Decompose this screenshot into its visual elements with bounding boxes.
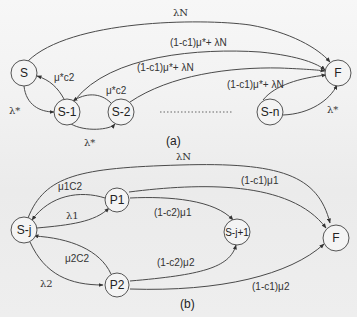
node-s-2: S-2 (108, 99, 134, 125)
svg-text:F: F (332, 231, 339, 245)
svg-text:S-1: S-1 (58, 105, 77, 119)
edge-label-lambda-n: λN (173, 7, 188, 18)
edge-label-sn-f-upper: (1-c1)μ*+ λN (227, 79, 284, 90)
node-f-b: F (323, 225, 349, 251)
edge-label-sj-p2: λ2 (40, 278, 53, 289)
svg-text:P1: P1 (110, 193, 125, 207)
svg-text:S-j+1: S-j+1 (225, 227, 249, 238)
svg-text:S-2: S-2 (112, 105, 131, 119)
edge-label-p1-sj: μ1C2 (58, 181, 83, 192)
edge-label-s2-f: (1-c1)μ*+ λN (137, 62, 194, 73)
edge-label-p1-f: (1-c1)μ1 (241, 175, 279, 186)
edge-label-s1-s: μ*c2 (54, 72, 75, 83)
node-s-1: S-1 (54, 99, 80, 125)
svg-text:P2: P2 (110, 278, 125, 292)
edge-label-s1-f: (1-c1)μ*+ λN (170, 37, 227, 48)
edge-label-p1-sj1: (1-c2)μ1 (154, 207, 192, 218)
node-s-n: S-n (257, 99, 283, 125)
edge-label-p2-f: (1-c1)μ2 (252, 281, 290, 292)
diagram-b: λN μ1C2 λ1 (1-c2)μ1 (1-c1)μ1 μ2C2 λ2 (1-… (11, 151, 349, 311)
svg-text:S-j: S-j (17, 223, 32, 237)
svg-text:S: S (20, 66, 28, 80)
edge-s1-to-s2 (71, 124, 115, 129)
diagram-a: λN (1-c1)μ*+ λN (1-c1)μ*+ λN (1-c1)μ*+ λ… (9, 7, 351, 148)
state-transition-diagram: λN (1-c1)μ*+ λN (1-c1)μ*+ λN (1-c1)μ*+ λ… (0, 0, 357, 317)
caption-a: (a) (166, 134, 181, 148)
edge-label-p2-sj: μ2C2 (65, 253, 90, 264)
svg-text:S-n: S-n (261, 105, 280, 119)
node-p1: P1 (105, 188, 129, 212)
node-f-a: F (325, 60, 351, 86)
node-p2: P2 (105, 273, 129, 297)
edge-label-s1-s2: λ* (84, 137, 95, 148)
edge-label-sj-f: λN (176, 151, 191, 162)
node-s-j-plus-1: S-j+1 (224, 219, 250, 245)
edge-s-to-s1 (24, 86, 54, 112)
edge-label-p2-sj1: (1-c2)μ2 (157, 257, 195, 268)
node-s: S (11, 60, 37, 86)
edge-label-sn-f-lower: λ* (327, 104, 338, 115)
edge-label-s-s1: λ* (9, 105, 20, 116)
node-s-j: S-j (11, 217, 37, 243)
caption-b: (b) (180, 297, 195, 311)
edge-label-sj-p1: λ1 (66, 210, 79, 221)
edge-label-s2-s1: μ*c2 (106, 85, 127, 96)
svg-text:F: F (334, 66, 341, 80)
